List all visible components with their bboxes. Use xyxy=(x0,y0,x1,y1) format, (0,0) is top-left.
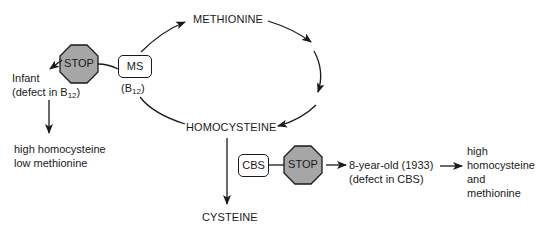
infant-label: Infant xyxy=(12,72,40,85)
enzyme-ms-label: MS xyxy=(127,60,144,72)
infant-defect-label: (defect in B12) xyxy=(12,86,80,99)
child-defect-label: (defect in CBS) xyxy=(349,173,424,186)
enzyme-cbs-label: CBS xyxy=(242,159,265,171)
arc-homocysteine-to-ms xyxy=(140,97,185,124)
cysteine-label: CYSTEINE xyxy=(202,211,258,224)
arrow-methionine-to-right xyxy=(268,21,311,42)
methionine-label: METHIONINE xyxy=(193,13,263,26)
child-outcome-line2: homocysteine xyxy=(467,159,535,172)
arrow-to-homocysteine xyxy=(278,105,316,126)
enzyme-ms-box: MS xyxy=(118,55,152,78)
arrow-right-to-down xyxy=(314,51,321,92)
homocysteine-label: HOMOCYSTEINE xyxy=(186,121,276,134)
child-label: 8-year-old (1933) xyxy=(349,159,433,172)
child-outcome-line4: methionine xyxy=(467,187,521,200)
connector-ms-stop xyxy=(98,64,118,69)
stop-cbs-label: STOP xyxy=(284,158,322,170)
stop-infant-label: STOP xyxy=(60,57,98,69)
arrow-ms-to-methionine xyxy=(141,22,185,52)
child-outcome-line1: high xyxy=(467,145,488,158)
child-outcome-line3: and xyxy=(467,173,485,186)
ms-cofactor-label: (B12) xyxy=(121,82,145,95)
infant-outcome-line1: high homocysteine xyxy=(14,143,106,156)
enzyme-cbs-box: CBS xyxy=(238,154,269,177)
infant-outcome-line2: low methionine xyxy=(14,157,87,170)
